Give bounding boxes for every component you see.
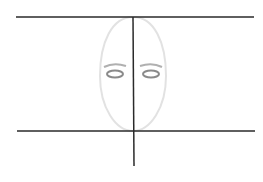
left-eye <box>104 64 126 77</box>
vertical-center-line <box>133 17 134 166</box>
right-eye <box>140 64 162 77</box>
right-eye-shape <box>143 71 159 78</box>
left-eyebrow <box>104 64 126 67</box>
left-eye-shape <box>107 71 123 78</box>
face-diagram <box>0 0 263 182</box>
right-eyebrow <box>140 64 162 67</box>
